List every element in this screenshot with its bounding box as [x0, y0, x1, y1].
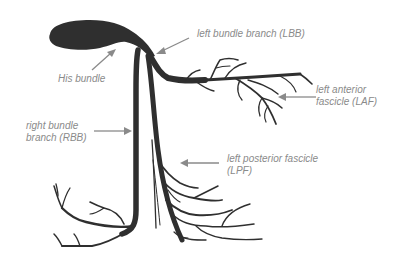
right-bundle-branch-label: right bundle branch (RBB): [26, 120, 87, 144]
right-bundle-branch-trunk: [122, 50, 138, 234]
left-anterior-fascicle-branches: [186, 59, 312, 125]
rbb-arrow: [94, 127, 132, 135]
left-anterior-fascicle-label: left anterior fascicle (LAF): [316, 84, 377, 108]
left-bundle-branch-trunk: [150, 56, 205, 80]
lbb-arrow: [156, 38, 189, 54]
his-bundle-arrow: [92, 49, 116, 70]
lpf-arrow: [180, 159, 219, 167]
left-bundle-branch-label: left bundle branch (LBB): [197, 28, 305, 40]
left-posterior-fascicle-label: left posterior fascicle (LPF): [227, 153, 318, 177]
his-bundle-label: His bundle: [58, 73, 105, 85]
laf-arrow: [278, 93, 316, 101]
